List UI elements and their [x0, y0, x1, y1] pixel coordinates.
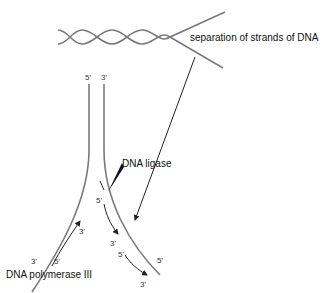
prime-label: 5'	[157, 256, 163, 265]
left-parent-strand	[32, 84, 89, 292]
ligase-label: DNA ligase	[122, 158, 172, 169]
prime-label: 5'	[54, 257, 60, 266]
separation-arrow	[135, 57, 195, 220]
replication-fork	[32, 84, 160, 292]
prime-label: 5'	[96, 196, 102, 205]
prime-label: 3'	[140, 280, 146, 289]
okazaki-fragment-arrow	[125, 255, 147, 275]
prime-label: 5'	[118, 250, 124, 259]
prime-label: 3'	[31, 257, 37, 266]
separation-label: separation of strands of DNA	[190, 32, 319, 43]
nick-mark	[100, 181, 104, 190]
dna-replication-diagram: separation of strands of DNA 5' 3' DNA l…	[0, 0, 332, 293]
polymerase-label: DNA polymerase III	[6, 269, 92, 280]
prime-label: 3'	[110, 239, 116, 248]
ligase-pointer	[108, 163, 124, 192]
prime-label: 3'	[79, 227, 85, 236]
prime-label: 5'	[85, 73, 91, 82]
prime-label: 3'	[101, 73, 107, 82]
